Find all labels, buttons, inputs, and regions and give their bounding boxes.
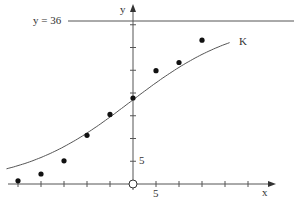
y-axis-label: y [120,4,126,15]
chart-canvas [0,0,294,202]
data-point [130,95,135,100]
logistic-curve-K [7,43,230,169]
data-point [176,60,181,65]
y-tick-label-5: 5 [139,155,145,166]
x-tick-label-5: 5 [153,188,159,199]
data-point [38,171,43,176]
y-axis-arrow-icon [130,4,136,12]
origin-open-circle [129,180,137,188]
data-point [84,133,89,138]
data-points [15,38,204,184]
asymptote-label: y = 36 [33,15,61,26]
data-point [61,158,66,163]
x-axis-label: x [262,187,268,198]
data-point [107,112,112,117]
x-axis-arrow-icon [268,181,276,187]
data-point [199,38,204,43]
data-point [15,178,20,183]
data-point [153,68,158,73]
curve-label: K [239,36,247,47]
